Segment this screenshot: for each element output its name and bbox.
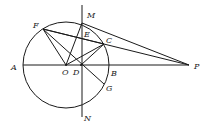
label-point-n: N bbox=[83, 114, 92, 123]
geometry-diagram: ABODPMNFCEG bbox=[0, 0, 214, 130]
label-point-e: E bbox=[83, 30, 90, 39]
point-d-dot bbox=[80, 64, 82, 66]
diagram-shapes bbox=[23, 5, 189, 117]
label-point-g: G bbox=[106, 84, 113, 93]
label-point-b: B bbox=[110, 69, 117, 78]
diagram-labels: ABODPMNFCEG bbox=[10, 11, 200, 123]
label-point-m: M bbox=[86, 11, 96, 20]
segment-mp bbox=[82, 23, 189, 65]
point-o-dot bbox=[65, 64, 67, 66]
label-point-f: F bbox=[32, 21, 39, 30]
segment-fc bbox=[43, 29, 104, 44]
label-point-d: D bbox=[72, 68, 80, 77]
label-point-o: O bbox=[62, 68, 69, 77]
label-point-c: C bbox=[106, 36, 112, 45]
segment-om bbox=[66, 23, 82, 65]
label-point-a: A bbox=[10, 63, 17, 72]
label-point-p: P bbox=[193, 62, 200, 71]
